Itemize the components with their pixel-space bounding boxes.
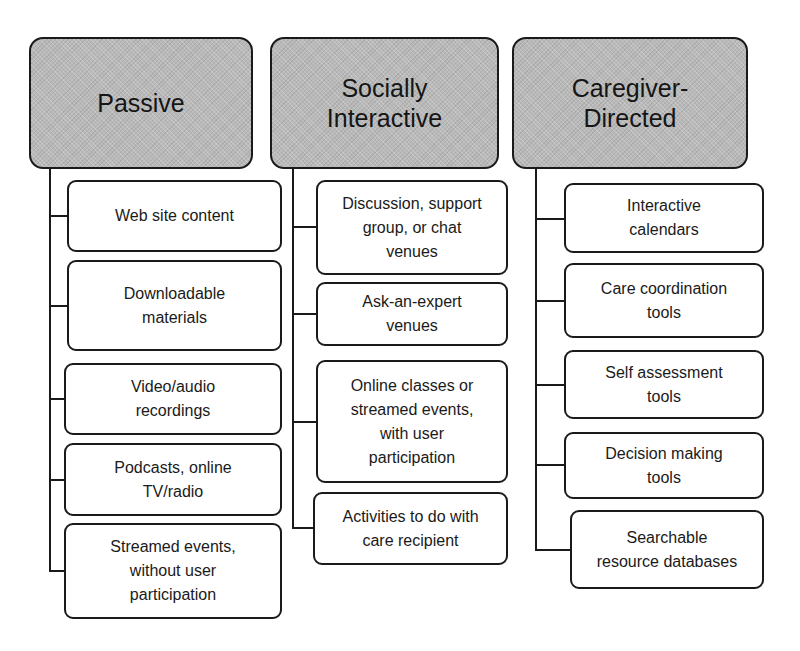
header-caregiver-directed: Caregiver- Directed [512,37,748,169]
caregiver-item-searchable-resource-databases: Searchable resource databases [570,510,764,589]
connector-social-1 [292,226,317,228]
connector-caregiver-3 [535,384,565,386]
passive-item-streamed-events-without-participation: Streamed events, without user participat… [64,523,282,619]
caregiver-item-care-coordination-tools: Care coordination tools [564,263,764,338]
connector-caregiver-5 [535,549,571,551]
social-item-activities-with-care-recipient: Activities to do with care recipient [313,492,508,565]
caregiver-item-label: Searchable resource databases [597,526,738,574]
header-socially-interactive-label: Socially Interactive [327,73,442,133]
caregiver-item-label: Interactive calendars [627,194,701,242]
passive-item-label: Streamed events, without user participat… [110,535,235,607]
social-item-ask-an-expert: Ask-an-expert venues [316,282,508,346]
passive-item-video-audio-recordings: Video/audio recordings [64,363,282,435]
passive-item-downloadable-materials: Downloadable materials [67,260,282,351]
social-item-discussion-support-chat: Discussion, support group, or chat venue… [316,180,508,275]
header-passive-label: Passive [97,88,185,118]
connector-passive-2 [49,305,68,307]
passive-item-podcasts-online-tv-radio: Podcasts, online TV/radio [64,443,282,516]
connector-passive-1 [49,215,68,217]
connector-caregiver-1 [535,218,565,220]
passive-item-web-site-content: Web site content [67,180,282,252]
caregiver-item-label: Self assessment tools [605,361,722,409]
header-passive: Passive [29,37,253,169]
passive-item-label: Downloadable materials [124,282,225,330]
passive-item-label: Video/audio recordings [131,375,215,423]
passive-item-label: Podcasts, online TV/radio [114,456,231,504]
connector-social-3 [292,421,317,423]
caregiver-item-label: Decision making tools [605,442,722,490]
connector-caregiver-2 [535,300,565,302]
social-item-online-classes-with-participation: Online classes or streamed events, with … [316,360,508,483]
header-caregiver-directed-label: Caregiver- Directed [572,73,689,133]
social-item-label: Activities to do with care recipient [342,505,478,553]
header-socially-interactive: Socially Interactive [270,37,499,169]
social-item-label: Online classes or streamed events, with … [351,374,474,470]
caregiver-item-label: Care coordination tools [601,277,727,325]
connector-social-2 [292,313,317,315]
social-item-label: Ask-an-expert venues [362,290,462,338]
caregiver-item-self-assessment-tools: Self assessment tools [564,350,764,419]
connector-social-trunk [292,169,294,529]
caregiver-item-interactive-calendars: Interactive calendars [564,183,764,253]
social-item-label: Discussion, support group, or chat venue… [342,192,482,264]
passive-item-label: Web site content [115,204,234,228]
connector-passive-trunk [49,169,51,572]
connector-caregiver-trunk [535,169,537,551]
caregiver-item-decision-making-tools: Decision making tools [564,432,764,499]
connector-caregiver-4 [535,464,565,466]
